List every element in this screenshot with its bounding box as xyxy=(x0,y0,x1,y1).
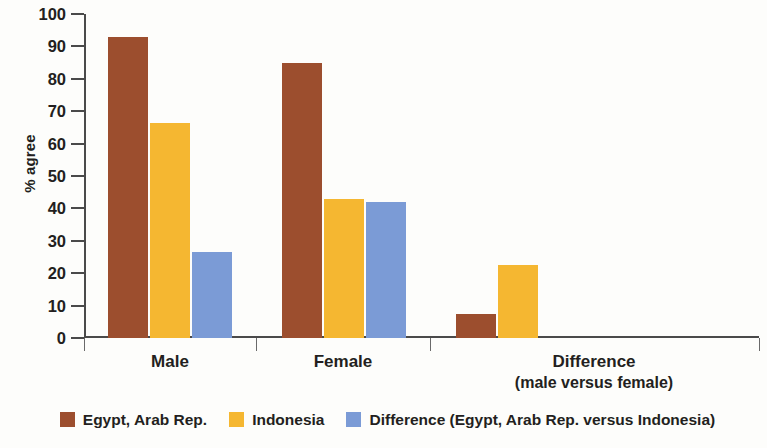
y-axis-tick-label: 20 xyxy=(20,265,66,282)
legend-label: Egypt, Arab Rep. xyxy=(83,412,207,428)
legend-item: Egypt, Arab Rep. xyxy=(60,412,207,428)
y-axis-tick-mark xyxy=(71,337,84,339)
bar xyxy=(150,123,190,338)
bar xyxy=(366,202,406,338)
legend-swatch-icon xyxy=(60,412,75,427)
category-separator xyxy=(430,338,431,351)
category-label-text: Female xyxy=(314,352,373,371)
category-separator xyxy=(84,338,85,351)
y-axis-tick-mark xyxy=(71,143,84,145)
y-axis-tick-label: 0 xyxy=(20,330,66,347)
y-axis-tick-label: 30 xyxy=(20,233,66,250)
y-axis-tick-label: 10 xyxy=(20,297,66,314)
y-axis-tick-mark xyxy=(71,110,84,112)
legend-label: Difference (Egypt, Arab Rep. versus Indo… xyxy=(369,412,715,428)
bar xyxy=(108,37,148,338)
legend-swatch-icon xyxy=(346,412,361,427)
category-label-difference: Difference(male versus female) xyxy=(464,352,724,393)
category-sublabel-text: (male versus female) xyxy=(464,373,724,393)
y-axis-tick-mark xyxy=(71,175,84,177)
y-axis-tick-label: 60 xyxy=(20,135,66,152)
y-axis-line xyxy=(84,14,86,338)
category-label-text: Male xyxy=(151,352,189,371)
category-separator xyxy=(256,338,257,351)
y-axis-tick-mark xyxy=(71,240,84,242)
y-axis-tick-mark xyxy=(71,305,84,307)
category-label-text: Difference xyxy=(552,352,635,371)
legend-item: Difference (Egypt, Arab Rep. versus Indo… xyxy=(346,412,715,428)
category-separator xyxy=(759,338,760,351)
category-label-female: Female xyxy=(213,352,473,373)
y-axis-tick-label: 50 xyxy=(20,168,66,185)
bar xyxy=(192,252,232,338)
plot-area: 1009080706050403020100 xyxy=(84,14,759,338)
bar xyxy=(456,314,496,338)
y-axis-tick-label: 80 xyxy=(20,71,66,88)
bar-chart: % agree 1009080706050403020100 MaleFemal… xyxy=(0,0,767,448)
legend-label: Indonesia xyxy=(252,412,324,428)
y-axis-tick-label: 100 xyxy=(20,6,66,23)
y-axis-tick-mark xyxy=(71,272,84,274)
y-axis-tick-mark xyxy=(71,78,84,80)
y-axis-tick-label: 70 xyxy=(20,103,66,120)
bar xyxy=(498,265,538,338)
legend-item: Indonesia xyxy=(229,412,324,428)
y-axis-tick-mark xyxy=(71,207,84,209)
chart-legend: Egypt, Arab Rep.IndonesiaDifference (Egy… xyxy=(0,412,767,428)
bar xyxy=(324,199,364,338)
y-axis-tick-label: 90 xyxy=(20,38,66,55)
legend-swatch-icon xyxy=(229,412,244,427)
bar xyxy=(282,63,322,338)
y-axis-tick-mark xyxy=(71,13,84,15)
y-axis-tick-label: 40 xyxy=(20,200,66,217)
y-axis-tick-mark xyxy=(71,45,84,47)
